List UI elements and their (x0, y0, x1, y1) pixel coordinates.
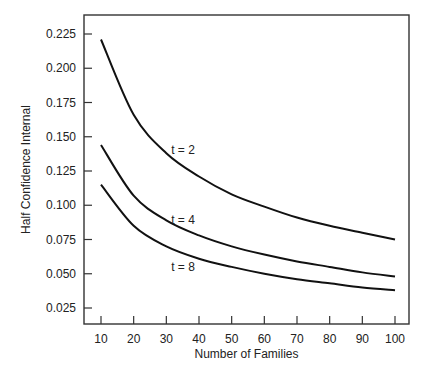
x-tick-label: 100 (385, 332, 405, 346)
x-tick-label: 70 (290, 332, 304, 346)
y-tick-label: 0.050 (46, 267, 76, 281)
series-label: t = 2 (171, 143, 195, 157)
y-axis: 0.0250.0500.0750.1000.1250.1500.1750.200… (46, 27, 92, 315)
y-tick-label: 0.200 (46, 61, 76, 75)
chart: 0.0250.0500.0750.1000.1250.1500.1750.200… (0, 0, 429, 383)
x-tick-label: 10 (94, 332, 108, 346)
y-tick-label: 0.225 (46, 27, 76, 41)
x-tick-label: 80 (323, 332, 337, 346)
x-axis: 102030405060708090100 (94, 316, 405, 346)
series-line (101, 145, 395, 277)
y-tick-label: 0.150 (46, 130, 76, 144)
y-tick-label: 0.100 (46, 198, 76, 212)
series-label: t = 8 (171, 260, 195, 274)
x-tick-label: 50 (225, 332, 239, 346)
y-tick-label: 0.075 (46, 233, 76, 247)
plot-frame (84, 15, 409, 324)
x-tick-label: 30 (160, 332, 174, 346)
y-tick-label: 0.025 (46, 301, 76, 315)
series-group (101, 39, 395, 290)
y-axis-label: Half Confidence Internal (19, 105, 33, 234)
y-tick-label: 0.175 (46, 96, 76, 110)
y-tick-label: 0.125 (46, 164, 76, 178)
series-label: t = 4 (171, 213, 195, 227)
x-tick-label: 90 (356, 332, 370, 346)
x-axis-label: Number of Families (194, 347, 298, 361)
x-tick-label: 40 (192, 332, 206, 346)
x-tick-label: 60 (258, 332, 272, 346)
x-tick-label: 20 (127, 332, 141, 346)
series-line (101, 39, 395, 239)
